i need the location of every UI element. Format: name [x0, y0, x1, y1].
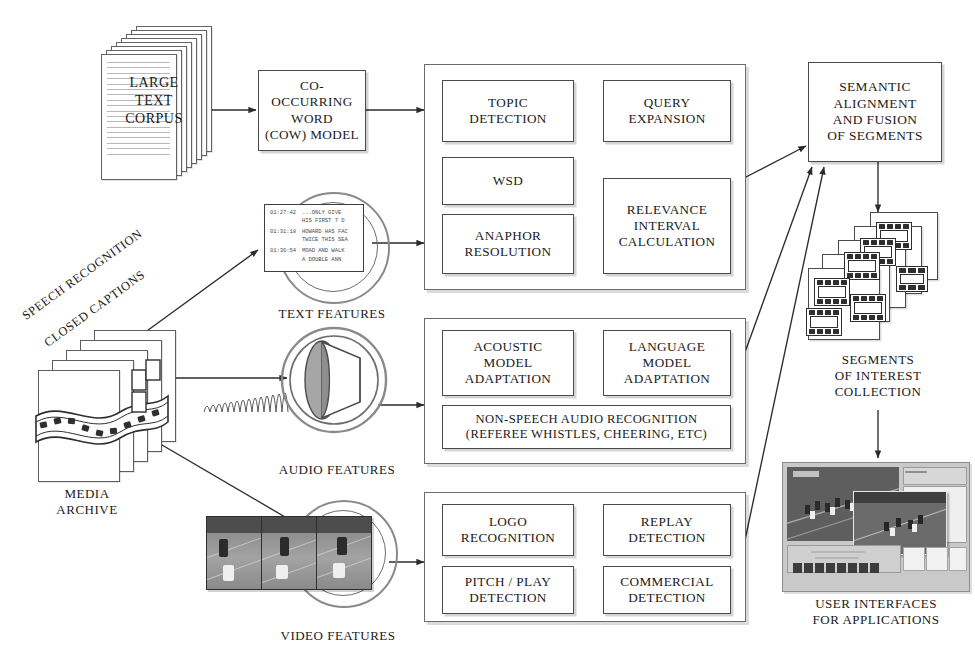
acoustic-model-adaptation-box[interactable]: ACOUSTIC MODEL ADAPTATION — [442, 330, 574, 396]
cc-text: HOWARD HAS FAC TWICE THIS SEA — [302, 228, 348, 244]
box-line: CALCULATION — [619, 234, 716, 250]
film-window — [850, 294, 886, 322]
film-window — [806, 308, 842, 336]
box-line: MODEL — [624, 355, 710, 371]
film-segments-stack-icon — [798, 212, 958, 372]
cow-model-box[interactable]: CO-OCCURRING WORD (COW) MODEL — [258, 70, 366, 151]
relevance-interval-calculation-box[interactable]: RELEVANCE INTERVAL CALCULATION — [603, 178, 731, 274]
pitch-play-detection-box[interactable]: PITCH / PLAY DETECTION — [442, 566, 574, 614]
video-frame — [207, 517, 262, 589]
application-screenshot-icon — [782, 462, 970, 592]
audio-features-caption: AUDIO FEATURES — [262, 462, 412, 478]
cow-line1: CO-OCCURRING — [263, 78, 361, 110]
box-line: RESOLUTION — [465, 244, 552, 260]
box-line: ADAPTATION — [624, 371, 710, 387]
box-line: COMMERCIAL — [620, 574, 713, 590]
box-line: QUERY — [628, 95, 705, 111]
cc-time: 01:36:54 — [270, 247, 296, 263]
video-features-caption: VIDEO FEATURES — [258, 628, 418, 644]
ui-caption-line2: FOR APPLICATIONS — [778, 612, 974, 628]
cc-row: 01:27:42 ...ONLY GIVE HIS FIRST 7 D — [270, 209, 358, 225]
cow-line2: WORD — [263, 111, 361, 127]
box-line: LANGUAGE — [624, 339, 710, 355]
ui-caption-line1: USER INTERFACES — [778, 596, 974, 612]
cc-text: MOAD AND WALK A DOUBLE ANN — [302, 247, 344, 263]
corpus-label-line1: LARGE — [108, 74, 200, 92]
box-line: DETECTION — [620, 590, 713, 606]
film-stack-icon — [36, 330, 176, 480]
non-speech-audio-recognition-box[interactable]: NON-SPEECH AUDIO RECOGNITION (REFEREE WH… — [442, 405, 731, 449]
cc-row: 01:36:54 MOAD AND WALK A DOUBLE ANN — [270, 247, 358, 263]
media-archive-line1: MEDIA — [22, 486, 152, 502]
wsd-box[interactable]: WSD — [442, 157, 574, 205]
replay-detection-box[interactable]: REPLAY DETECTION — [603, 504, 731, 556]
logo-recognition-box[interactable]: LOGO RECOGNITION — [442, 504, 574, 556]
box-line: ANAPHOR — [465, 228, 552, 244]
commercial-detection-box[interactable]: COMMERCIAL DETECTION — [603, 566, 731, 614]
box-line: WSD — [493, 173, 524, 189]
text-features-caption: TEXT FEATURES — [262, 306, 402, 322]
segments-line1: SEGMENTS — [808, 352, 948, 368]
anaphor-resolution-box[interactable]: ANAPHOR RESOLUTION — [442, 214, 574, 274]
language-model-adaptation-box[interactable]: LANGUAGE MODEL ADAPTATION — [603, 330, 731, 396]
box-line: TOPIC — [469, 95, 547, 111]
box-line: REPLAY — [628, 514, 706, 530]
media-archive-label: MEDIA ARCHIVE — [22, 486, 152, 518]
box-line: ALIGNMENT — [827, 96, 923, 112]
box-line: MODEL — [465, 355, 551, 371]
user-interfaces-caption: USER INTERFACES FOR APPLICATIONS — [778, 596, 974, 628]
topic-detection-box[interactable]: TOPIC DETECTION — [442, 80, 574, 142]
video-filmstrip-icon — [206, 516, 372, 590]
closed-caption-box-icon: 01:27:42 ...ONLY GIVE HIS FIRST 7 D 01:3… — [264, 204, 364, 272]
cc-time: 01:27:42 — [270, 209, 296, 225]
film-window — [814, 278, 850, 306]
box-line: LOGO — [461, 514, 556, 530]
box-line: ADAPTATION — [465, 371, 551, 387]
video-frame — [262, 517, 317, 589]
film-window — [844, 252, 880, 280]
box-line: AND FUSION — [827, 112, 923, 128]
box-line: NON-SPEECH AUDIO RECOGNITION — [466, 412, 707, 427]
box-line: DETECTION — [465, 590, 551, 606]
segments-line3: COLLECTION — [808, 384, 948, 400]
box-line: DETECTION — [469, 111, 547, 127]
box-line: PITCH / PLAY — [465, 574, 551, 590]
query-expansion-box[interactable]: QUERY EXPANSION — [603, 80, 731, 142]
box-line: DETECTION — [628, 530, 706, 546]
box-line: INTERVAL — [619, 218, 716, 234]
semantic-alignment-fusion-box[interactable]: SEMANTIC ALIGNMENT AND FUSION OF SEGMENT… — [808, 62, 942, 162]
cc-text: ...ONLY GIVE HIS FIRST 7 D — [302, 209, 344, 225]
box-line: ACOUSTIC — [465, 339, 551, 355]
box-line: SEMANTIC — [827, 79, 923, 95]
diagram-canvas: LARGE TEXT CORPUS CO-OCCURRING WORD (COW… — [0, 0, 975, 668]
video-frame — [317, 517, 371, 589]
speaker-waveform-icon — [200, 330, 390, 450]
box-line: EXPANSION — [628, 111, 705, 127]
box-line: RECOGNITION — [461, 530, 556, 546]
segments-of-interest-caption: SEGMENTS OF INTEREST COLLECTION — [808, 352, 948, 400]
box-line: OF SEGMENTS — [827, 128, 923, 144]
corpus-label-line2: TEXT — [108, 92, 200, 110]
box-line: RELEVANCE — [619, 202, 716, 218]
box-line: (REFEREE WHISTLES, CHEERING, ETC) — [466, 427, 707, 442]
large-text-corpus-label: LARGE TEXT CORPUS — [108, 74, 200, 129]
cc-row: 01:31:18 HOWARD HAS FAC TWICE THIS SEA — [270, 228, 358, 244]
segments-line2: OF INTEREST — [808, 368, 948, 384]
media-archive-line2: ARCHIVE — [22, 502, 152, 518]
cow-line3: (COW) MODEL — [263, 127, 361, 143]
corpus-label-line3: CORPUS — [108, 110, 200, 128]
film-window — [896, 266, 928, 292]
cc-time: 01:31:18 — [270, 228, 296, 244]
